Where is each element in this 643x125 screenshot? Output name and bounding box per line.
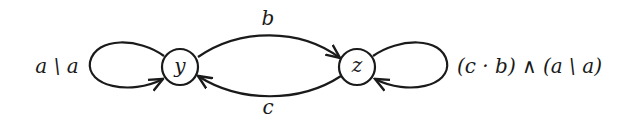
node-z-label: z: [351, 53, 363, 77]
node-y-label: y: [173, 54, 186, 78]
automaton-diagram: y z a \ a b c (c · b) ∧ (a \ a): [0, 0, 643, 125]
edge-z-to-z-loop: [373, 42, 447, 87]
edge-label-b: b: [262, 6, 275, 30]
edge-label-y-loop: a \ a: [35, 54, 78, 78]
edge-z-to-y: [198, 76, 341, 96]
edge-y-to-z: [198, 35, 340, 58]
edge-y-to-y-loop: [90, 42, 164, 87]
edge-label-c: c: [262, 95, 273, 119]
edge-label-z-loop: (c · b) ∧ (a \ a): [457, 54, 602, 78]
